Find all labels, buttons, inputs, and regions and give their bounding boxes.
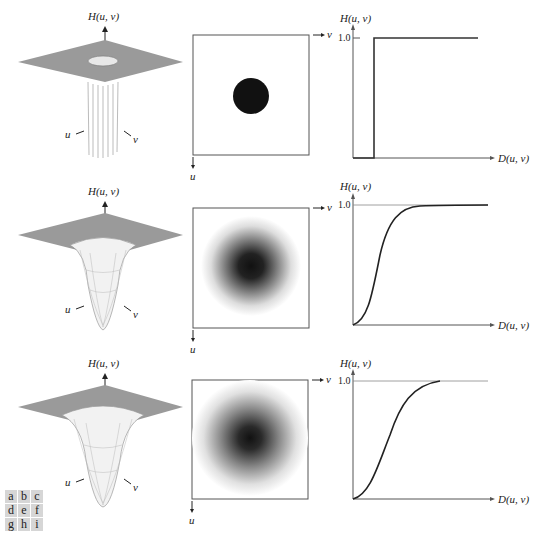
profile-xlabel: D(u, v): [498, 319, 529, 331]
profile-xlabel: D(u, v): [498, 493, 529, 505]
panel-key-d: d: [5, 504, 17, 517]
profile-plot-butterworth: H(u, v) 1.0 D(u, v): [340, 175, 547, 355]
surface-u-label: u: [65, 128, 71, 140]
surface-plot-ideal: H(u, v) u v: [0, 0, 190, 175]
surface-u-label: u: [65, 476, 71, 488]
surface-u-label: u: [65, 303, 71, 315]
image-v-label: v: [327, 201, 332, 213]
image-v-label: v: [326, 373, 331, 385]
filter-image-gaussian: v u: [180, 370, 350, 534]
profile-xlabel: D(u, v): [498, 152, 529, 164]
image-u-label: u: [190, 343, 196, 355]
row-gaussian: H(u, v) u v: [0, 355, 547, 534]
surface-plot-butterworth: H(u, v) u v: [0, 175, 190, 355]
row-butterworth: H(u, v) u v: [0, 175, 547, 355]
panel-key-b: b: [18, 490, 30, 503]
surface-v-label: v: [133, 481, 138, 493]
panel-key-a: a: [5, 490, 17, 503]
row-ideal: H(u, v) u v: [0, 0, 547, 175]
surface-v-label: v: [133, 308, 138, 320]
panel-key-c: c: [31, 490, 43, 503]
panel-key-i: i: [31, 518, 43, 531]
panel-key-h: h: [18, 518, 30, 531]
profile-plot-gaussian: H(u, v) 1.0 D(u, v): [340, 355, 547, 534]
profile-plot-ideal: H(u, v) 1.0 D(u, v): [340, 0, 547, 175]
surface-v-label: v: [133, 133, 138, 145]
filter-image-butterworth: v u: [180, 195, 350, 360]
panel-key-f: f: [31, 504, 43, 517]
image-v-label: v: [327, 28, 332, 40]
surface-graphic: [0, 175, 190, 355]
image-u-label: u: [189, 514, 195, 526]
surface-graphic: [0, 0, 190, 175]
filter-image-ideal: v u: [180, 20, 350, 185]
panel-key: a b c d e f g h i: [5, 490, 43, 531]
panel-key-e: e: [18, 504, 30, 517]
panel-key-g: g: [5, 518, 17, 531]
